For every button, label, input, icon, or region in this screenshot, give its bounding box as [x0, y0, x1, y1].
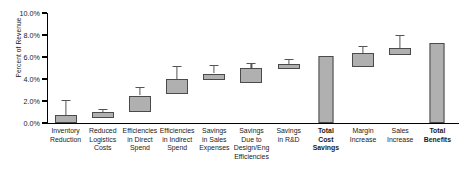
range-box — [352, 53, 374, 67]
whisker-cap — [61, 100, 70, 101]
x-axis-label: TotalBenefits — [416, 127, 459, 144]
whisker-cap — [396, 35, 405, 36]
x-axis-line — [45, 123, 459, 125]
range-box — [166, 79, 188, 94]
y-tick-label: 2.0% — [24, 97, 40, 106]
chart-bar-group — [84, 13, 121, 123]
range-box — [240, 68, 262, 83]
whisker-line — [177, 66, 178, 79]
x-axis-label-line: Benefits — [416, 136, 459, 145]
x-axis-label-line: Efficiencies — [230, 153, 273, 162]
chart-bar-group — [419, 13, 456, 123]
x-axis-label-line: Savings — [304, 144, 347, 153]
range-box — [129, 96, 151, 113]
whisker-line — [139, 87, 140, 96]
x-axis-label-line: Design/Eng — [230, 144, 273, 153]
chart-bar-group — [159, 13, 196, 123]
x-axis-labels: InventoryReductionReducedLogisticsCostsE… — [47, 127, 456, 173]
whisker-cap — [247, 63, 256, 64]
whisker-cap — [173, 66, 182, 67]
whisker-line — [214, 65, 215, 74]
chart-bar-group — [307, 13, 344, 123]
whisker-line — [400, 35, 401, 48]
plot-area: 0.0%2.0%4.0%6.0%8.0%10.0% — [47, 13, 456, 123]
range-box — [55, 115, 77, 123]
chart-bar-group — [47, 13, 84, 123]
chart-bar-group — [270, 13, 307, 123]
solid-bar — [318, 56, 333, 123]
whisker-cap — [210, 65, 219, 66]
y-tick-label: 8.0% — [24, 31, 40, 40]
range-box — [203, 74, 225, 81]
range-box — [389, 48, 411, 55]
whisker-cap — [284, 59, 293, 60]
y-tick-label: 0.0% — [24, 119, 40, 128]
chart-bar-group — [121, 13, 158, 123]
chart-bar-group — [344, 13, 381, 123]
y-tick-label: 4.0% — [24, 75, 40, 84]
solid-bar — [430, 43, 445, 123]
range-box — [278, 64, 300, 70]
range-box — [92, 112, 114, 118]
chart-bar-group — [196, 13, 233, 123]
whisker-cap — [359, 46, 368, 47]
whisker-line — [65, 100, 66, 115]
chart-bar-group — [233, 13, 270, 123]
y-tick-label: 10.0% — [20, 9, 40, 18]
whisker-cap — [98, 109, 107, 110]
whisker-cap — [135, 87, 144, 88]
chart-figure: Percent of Revenue 0.0%2.0%4.0%6.0%8.0%1… — [0, 0, 464, 173]
y-tick-label: 6.0% — [24, 53, 40, 62]
chart-bar-group — [382, 13, 419, 123]
data-series — [47, 13, 456, 123]
x-axis-label-line: Total — [416, 127, 459, 136]
